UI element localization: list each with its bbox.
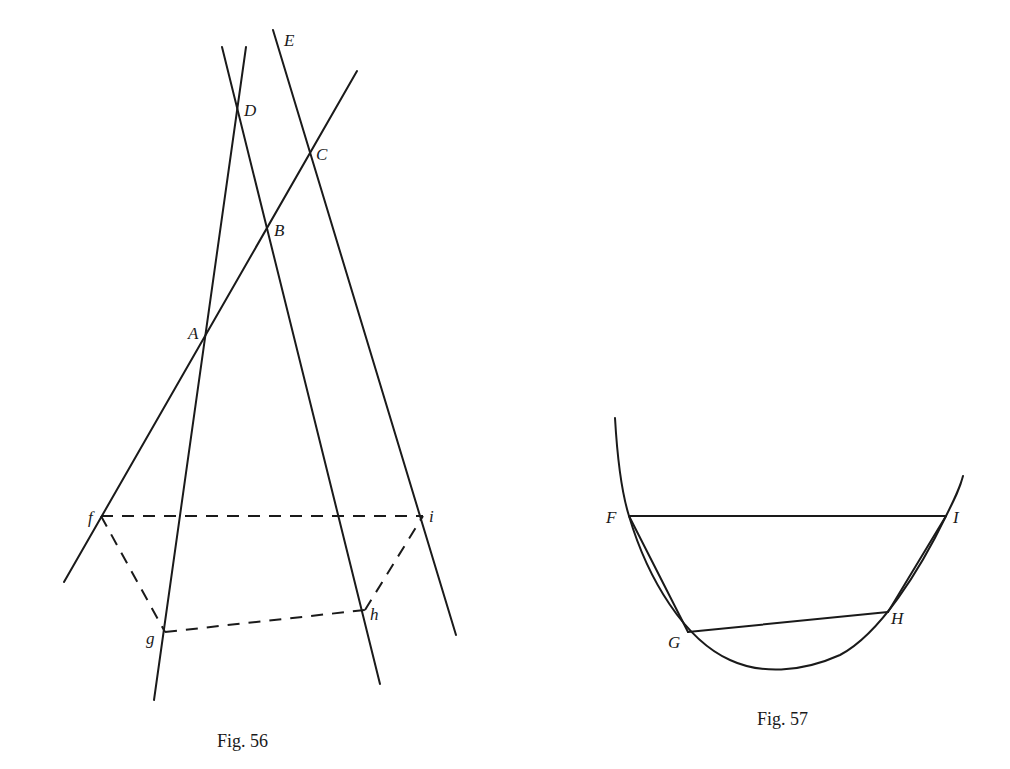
label-f: f <box>88 508 95 527</box>
figure-57: F I G H Fig. 57 <box>605 418 963 729</box>
dashed-g-h <box>165 610 365 632</box>
line-through-C-B-A-f <box>64 71 357 582</box>
label-I: I <box>952 508 960 527</box>
label-D: D <box>243 101 257 120</box>
parabola-curve <box>615 418 963 670</box>
caption-fig-56: Fig. 56 <box>217 731 268 751</box>
label-h: h <box>370 605 379 624</box>
chord-F-G <box>629 516 688 632</box>
line-through-D-B-h <box>222 47 380 684</box>
label-A: A <box>187 324 199 343</box>
dashed-f-g <box>101 516 165 632</box>
figure-56: E D C B A f i g h Fig. 56 <box>64 30 456 751</box>
line-through-E-C-i <box>273 30 456 635</box>
dashed-h-i <box>365 516 423 610</box>
chord-H-I <box>888 516 946 612</box>
diagram-canvas: E D C B A f i g h Fig. 56 F I G H Fig. 5… <box>0 0 1010 769</box>
label-C: C <box>316 145 328 164</box>
caption-fig-57: Fig. 57 <box>757 709 808 729</box>
label-H: H <box>890 609 905 628</box>
label-F: F <box>605 508 617 527</box>
label-i: i <box>429 507 434 526</box>
label-g: g <box>146 629 155 648</box>
label-B: B <box>274 221 285 240</box>
line-through-D-g <box>154 47 246 700</box>
label-E: E <box>283 31 295 50</box>
chord-G-H <box>688 612 888 632</box>
label-G: G <box>668 633 680 652</box>
